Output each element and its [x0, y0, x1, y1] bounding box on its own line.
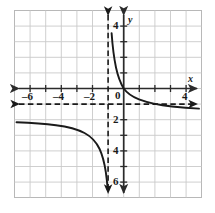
- x-axis-label: x: [188, 74, 193, 84]
- x-tick-label-pos4: 4: [182, 91, 188, 102]
- graph-figure: –6 –4 –2 4 4 2 4 6 0 x y: [0, 0, 215, 213]
- y-axis-label: y: [128, 15, 132, 25]
- x-tick-label-neg4: –4: [53, 91, 64, 102]
- origin-label: 0: [115, 90, 121, 101]
- x-tick-label-neg6: –6: [22, 91, 33, 102]
- y-tick-label-neg6: 6: [113, 176, 119, 187]
- y-tick-label-neg2: 2: [113, 114, 119, 125]
- x-tick-label-neg2: –2: [84, 91, 95, 102]
- y-tick-label-neg4: 4: [113, 145, 119, 156]
- rational-function-plot: [0, 0, 215, 213]
- y-tick-label-pos4: 4: [113, 20, 119, 31]
